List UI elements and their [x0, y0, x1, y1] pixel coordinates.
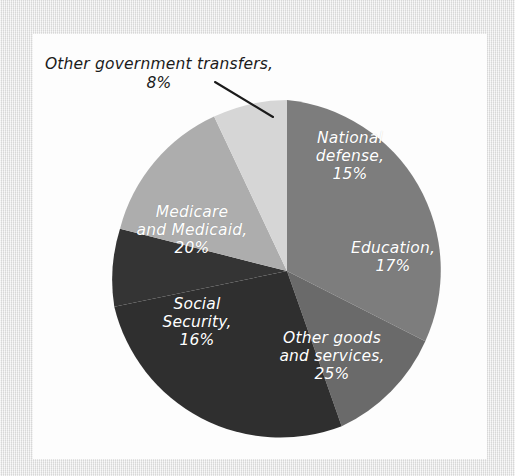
pie-chart: National defense, 15% Education, 17% Oth… [0, 0, 515, 476]
pie-label-medicare-and-medicaid: Medicare and Medicaid, 20% [112, 204, 272, 258]
pie-label-national-defense: National defense, 15% [300, 130, 400, 184]
pie-label-education: Education, 17% [338, 240, 448, 276]
pie-label-other-government-transfers: Other government transfers, 8% [34, 55, 284, 92]
scanned-page-background: National defense, 15% Education, 17% Oth… [0, 0, 515, 476]
pie-label-social-security: Social Security, 16% [142, 296, 252, 350]
pie-label-other-goods-and-services: Other goods and services, 25% [262, 330, 402, 384]
